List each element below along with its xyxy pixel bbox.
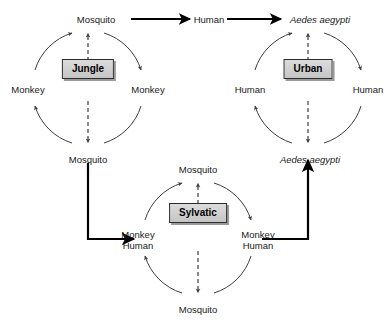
urban-label-bottom-aedes-aegypti: Aedes aegypti: [280, 154, 340, 165]
urban-cycle-box[interactable]: Urban: [284, 59, 333, 79]
jungle-label-right-monkey: Monkey: [131, 84, 164, 95]
jungle-label-left-monkey: Monkey: [11, 84, 44, 95]
urban-label-right-human: Human: [353, 84, 384, 95]
sylvatic-label-right-line1: Monkey: [241, 229, 274, 240]
sylvatic-label-left-line2: Human: [121, 240, 154, 251]
top-chain-label-mosquito: Mosquito: [77, 14, 116, 25]
top-chain-label-human: Human: [194, 14, 225, 25]
top-chain-label-aedes-aegypti: Aedes aegypti: [290, 14, 350, 25]
connector-jungle-to-sylvatic: [88, 163, 134, 239]
sylvatic-cycle-box[interactable]: Sylvatic: [169, 203, 227, 223]
urban-arc-aedes-bottom-to-human-left: [255, 106, 292, 143]
urban-label-left-human: Human: [235, 84, 266, 95]
diagram-canvas: Mosquito Human Aedes aegypti Mosquito Mo…: [0, 0, 392, 326]
sylvatic-label-left-line1: Monkey: [121, 229, 154, 240]
sylvatic-arc-host-right-to-mosquito-bottom: [214, 256, 251, 293]
sylvatic-cycle-arcs: [145, 183, 251, 293]
jungle-label-bottom-mosquito: Mosquito: [69, 154, 108, 165]
urban-cycle-arcs: [255, 33, 361, 143]
sylvatic-label-top-mosquito: Mosquito: [179, 164, 218, 175]
jungle-cycle-arcs: [35, 33, 141, 143]
jungle-cycle-box[interactable]: Jungle: [62, 59, 114, 79]
jungle-arc-monkey-right-to-mosquito-bottom: [104, 106, 141, 143]
sylvatic-label-bottom-mosquito: Mosquito: [179, 304, 218, 315]
connector-sylvatic-to-urban: [262, 160, 308, 239]
urban-arc-human-right-to-aedes-bottom: [324, 106, 361, 143]
sylvatic-label-right-line2: Human: [241, 240, 274, 251]
sylvatic-arc-mosquito-bottom-to-host-left: [145, 256, 182, 293]
sylvatic-label-left-host: Monkey Human: [121, 229, 154, 251]
jungle-arc-mosquito-bottom-to-monkey-left: [35, 106, 72, 143]
sylvatic-label-right-host: Monkey Human: [241, 229, 274, 251]
